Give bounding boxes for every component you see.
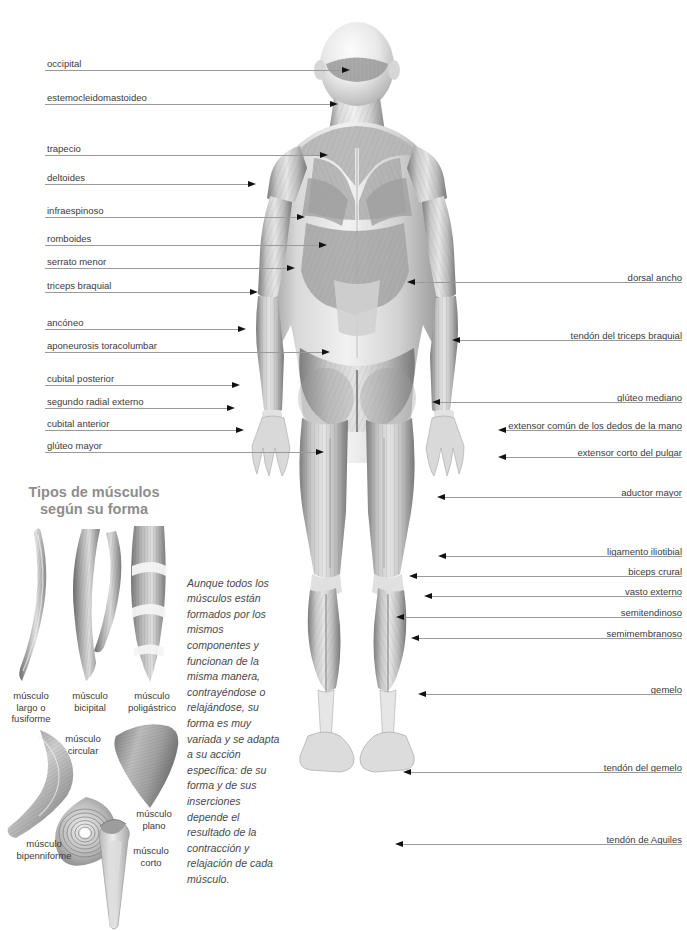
- leader-arrow-right-4: [498, 454, 506, 460]
- muscle-shape-poligastrico-figure: [120, 522, 178, 690]
- muscle-types-heading-line1: Tipos de músculos: [4, 484, 184, 501]
- leader-line-right-2: [440, 402, 682, 403]
- leader-line-left-5: [45, 245, 319, 246]
- label-left-0: occipital: [47, 58, 81, 69]
- muscle-shape-fusiforme-figure: [8, 525, 60, 689]
- explanatory-paragraph: Aunque todos los músculos están formados…: [187, 576, 283, 888]
- label-left-9: aponeurosis toracolumbar: [47, 340, 157, 351]
- label-left-5: romboides: [47, 233, 91, 244]
- label-left-1: estemocleidomastoideo: [47, 92, 147, 103]
- leader-arrow-left-3: [248, 181, 256, 187]
- leader-arrow-right-12: [403, 769, 411, 775]
- leader-arrow-right-0: [407, 279, 415, 285]
- leader-line-left-12: [45, 430, 236, 431]
- leader-arrow-left-1: [330, 101, 338, 107]
- leader-line-right-6: [446, 556, 682, 557]
- muscle-types-heading-line2: según su forma: [4, 501, 184, 518]
- label-left-11: segundo radial externo: [47, 396, 144, 407]
- leader-line-right-12: [411, 772, 682, 773]
- label-left-10: cubital posterior: [47, 373, 114, 384]
- leader-line-left-9: [45, 352, 322, 353]
- leader-arrow-right-7: [409, 573, 417, 579]
- label-left-6: serrato menor: [47, 256, 106, 267]
- leader-line-right-4: [506, 457, 682, 458]
- leader-arrow-left-0: [342, 67, 350, 73]
- label-left-7: triceps braquial: [47, 280, 111, 291]
- leader-line-left-1: [45, 104, 330, 105]
- leader-arrow-right-13: [395, 841, 403, 847]
- leader-line-left-10: [45, 385, 232, 386]
- leader-arrow-left-7: [250, 289, 258, 295]
- leader-line-left-11: [45, 408, 227, 409]
- leader-arrow-right-9: [396, 614, 404, 620]
- leader-line-left-2: [45, 155, 320, 156]
- muscle-type-caption-plano: músculo plano: [128, 808, 180, 831]
- leader-line-right-9: [404, 617, 682, 618]
- leader-arrow-left-13: [316, 449, 324, 455]
- leader-arrow-right-10: [411, 635, 419, 641]
- muscle-type-caption-poligastrico: músculo poligástrico: [118, 690, 186, 713]
- leader-arrow-left-12: [236, 427, 244, 433]
- leader-arrow-left-4: [297, 214, 305, 220]
- muscle-type-caption-fusiforme: músculo largo o fusiforme: [2, 690, 60, 725]
- label-left-3: deltoides: [47, 172, 85, 183]
- leader-arrow-right-1: [452, 337, 460, 343]
- muscle-type-caption-corto: músculo corto: [125, 845, 177, 868]
- muscle-types-heading: Tipos de músculos según su forma: [4, 484, 184, 518]
- muscle-shape-bicipital-figure: [60, 523, 122, 689]
- leader-line-left-13: [45, 452, 316, 453]
- leader-line-right-8: [432, 596, 682, 597]
- leader-line-right-0: [415, 282, 682, 283]
- leader-line-right-13: [403, 844, 682, 845]
- muscle-type-caption-circular: músculo circular: [52, 733, 114, 756]
- label-left-4: infraespinoso: [47, 205, 104, 216]
- label-left-8: ancóneo: [47, 317, 83, 328]
- leader-arrow-left-10: [232, 382, 240, 388]
- leader-line-left-3: [45, 184, 248, 185]
- leader-line-right-1: [460, 340, 682, 341]
- leader-line-left-7: [45, 292, 250, 293]
- label-left-12: cubital anterior: [47, 418, 109, 429]
- leader-line-left-0: [45, 70, 342, 71]
- leader-line-right-7: [417, 576, 682, 577]
- leader-arrow-left-5: [319, 242, 327, 248]
- leader-arrow-right-2: [432, 399, 440, 405]
- leader-arrow-left-8: [238, 326, 246, 332]
- leader-arrow-left-11: [227, 405, 235, 411]
- anatomy-plate: occipitalestemocleidomastoideotrapeciode…: [0, 0, 687, 931]
- label-left-2: trapecio: [47, 143, 81, 154]
- leader-arrow-right-6: [438, 553, 446, 559]
- leader-line-right-5: [445, 497, 682, 498]
- muscle-type-caption-bicipital: músculo bicipital: [60, 690, 120, 713]
- muscle-shape-plano-figure: [106, 720, 182, 816]
- leader-line-left-6: [45, 268, 287, 269]
- leader-arrow-right-5: [437, 494, 445, 500]
- leader-line-left-4: [45, 217, 297, 218]
- label-left-13: glúteo mayor: [47, 440, 102, 451]
- leader-arrow-left-2: [320, 152, 328, 158]
- leader-line-right-3: [506, 430, 682, 431]
- leader-line-right-11: [426, 694, 682, 695]
- leader-line-right-10: [419, 638, 682, 639]
- muscle-type-caption-bipenniforme: músculo bipenniforme: [5, 838, 83, 861]
- leader-arrow-left-6: [287, 265, 295, 271]
- leader-arrow-right-3: [498, 427, 506, 433]
- leader-arrow-right-8: [424, 593, 432, 599]
- leader-arrow-right-11: [418, 691, 426, 697]
- leader-arrow-left-9: [322, 349, 330, 355]
- leader-line-left-8: [45, 329, 238, 330]
